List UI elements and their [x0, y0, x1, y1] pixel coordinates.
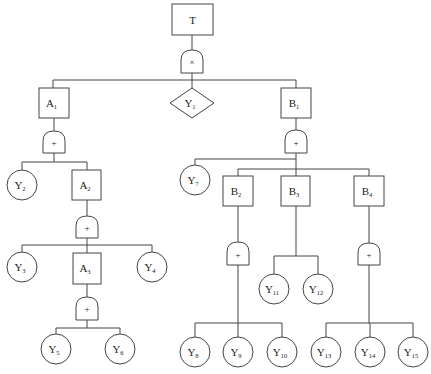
or-gate-G7[interactable]: +	[358, 243, 380, 265]
event-B4[interactable]: B4	[354, 176, 384, 206]
event-B3[interactable]: B3	[281, 176, 310, 206]
event-Y12[interactable]: Y12	[303, 274, 333, 304]
event-A2[interactable]: A2	[72, 170, 101, 200]
or-gate-G1[interactable]: +	[43, 131, 65, 153]
event-B1[interactable]: B1	[281, 88, 311, 118]
event-Y10[interactable]: Y10	[267, 337, 297, 367]
event-Y14[interactable]: Y14	[355, 337, 385, 367]
event-Y8[interactable]: Y8	[180, 337, 210, 367]
event-Y3[interactable]: Y3	[7, 252, 37, 282]
svg-text:+: +	[366, 250, 371, 260]
or-gate-G3[interactable]: +	[76, 297, 98, 320]
event-Y1[interactable]: Y1	[170, 88, 214, 118]
event-A1[interactable]: A1	[39, 88, 69, 118]
event-Y2[interactable]: Y2	[7, 170, 37, 200]
event-Y15[interactable]: Y15	[398, 337, 428, 367]
event-Y6[interactable]: Y6	[105, 334, 135, 364]
svg-text:×: ×	[189, 57, 194, 67]
event-Y13[interactable]: Y13	[311, 337, 341, 367]
svg-text:+: +	[293, 138, 298, 148]
event-Y11[interactable]: Y11	[259, 274, 289, 304]
or-gate-G2[interactable]: +	[76, 216, 98, 238]
svg-text:+: +	[51, 138, 56, 148]
event-Y7[interactable]: Y7	[180, 165, 210, 195]
svg-text:+: +	[84, 223, 89, 233]
event-B2[interactable]: B2	[223, 176, 253, 206]
top-event-label: T	[189, 14, 196, 26]
event-Y9[interactable]: Y9	[223, 337, 253, 367]
svg-text:+: +	[84, 304, 89, 314]
and-gate-G0[interactable]: ×	[181, 50, 203, 73]
or-gate-G4[interactable]: +	[285, 130, 307, 153]
event-A3[interactable]: A3	[73, 253, 101, 284]
fault-tree-diagram: T × + + + + + + A1 A2 A3	[0, 0, 431, 374]
event-Y4[interactable]: Y4	[137, 252, 167, 282]
top-event-T[interactable]: T	[172, 4, 213, 35]
event-Y5[interactable]: Y5	[41, 334, 71, 364]
svg-text:+: +	[235, 250, 240, 260]
or-gate-G5[interactable]: +	[227, 242, 249, 265]
